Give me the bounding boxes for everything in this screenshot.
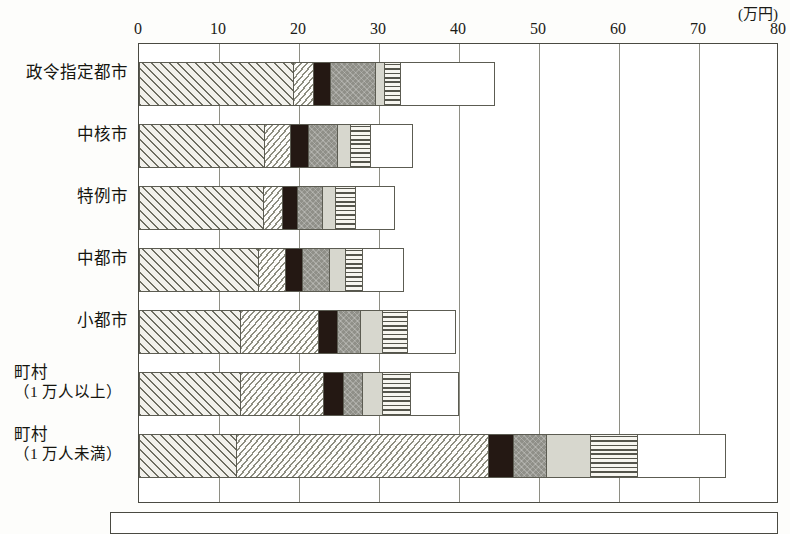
category-label-0: 政令指定都市 [0, 63, 128, 83]
bar-segment-dotted-weave [264, 186, 283, 230]
stacked-bar [139, 434, 726, 478]
bar-segment-horizontal-line [383, 372, 411, 416]
stacked-bar [139, 124, 413, 168]
plot-area [138, 43, 778, 503]
bar-segment-dark-gray [298, 186, 323, 230]
bar-segment-dotted-weave [259, 248, 286, 292]
bar-segment-white [638, 434, 726, 478]
x-tick-label-40: 40 [450, 20, 466, 38]
x-tick-label-80: 80 [770, 20, 786, 38]
category-label-line: 特例市 [77, 187, 128, 206]
bar-segment-dark-gray [331, 62, 376, 106]
x-tick-label-10: 10 [210, 20, 226, 38]
x-axis-tick-labels: 01020304050607080 [0, 20, 790, 40]
bar-segment-solid-black [286, 248, 303, 292]
bar-row [139, 425, 777, 487]
bar-segment-light-gray [323, 186, 336, 230]
bar-segment-diagonal-hatch [139, 434, 237, 478]
stacked-bar [139, 310, 456, 354]
bar-row [139, 177, 777, 239]
bar-segment-dark-gray [309, 124, 338, 168]
bar-segment-horizontal-line [336, 186, 356, 230]
x-tick-label-0: 0 [134, 20, 142, 38]
bar-segment-diagonal-hatch [139, 248, 259, 292]
bar-segment-dotted-weave [241, 310, 319, 354]
bar-segment-diagonal-hatch [139, 124, 265, 168]
x-tick-label-60: 60 [610, 20, 626, 38]
bar-segment-solid-black [314, 62, 331, 106]
category-label-line: 小都市 [77, 311, 128, 330]
bar-segment-dark-gray [338, 310, 361, 354]
bar-segment-dotted-weave [265, 124, 291, 168]
stacked-bar [139, 372, 459, 416]
category-label-line: 中核市 [77, 125, 128, 144]
bar-segment-solid-black [324, 372, 344, 416]
bar-row [139, 115, 777, 177]
bar-segment-white [371, 124, 413, 168]
category-label-line: 政令指定都市 [26, 63, 128, 82]
bar-row [139, 239, 777, 301]
bar-segment-white [408, 310, 456, 354]
x-tick-label-70: 70 [690, 20, 706, 38]
bar-segment-solid-black [489, 434, 515, 478]
category-label-line: 中都市 [77, 249, 128, 268]
category-label-1: 中核市 [0, 125, 128, 145]
bar-segment-dark-gray [514, 434, 547, 478]
bar-segment-white [356, 186, 395, 230]
category-label-line: （1 万人以上） [14, 383, 128, 402]
x-tick-label-20: 20 [290, 20, 306, 38]
bar-segment-dotted-weave [241, 372, 323, 416]
bar-segment-light-gray [363, 372, 383, 416]
bar-row [139, 301, 777, 363]
category-label-5: 町村（1 万人以上） [0, 363, 128, 402]
stacked-bar [139, 186, 395, 230]
bar-segment-horizontal-line [383, 310, 408, 354]
category-label-6: 町村（1 万人未満） [0, 425, 128, 464]
bar-segment-horizontal-line [346, 248, 363, 292]
bar-segment-diagonal-hatch [139, 372, 241, 416]
bar-segment-diagonal-hatch [139, 62, 294, 106]
bar-row [139, 53, 777, 115]
bar-row [139, 363, 777, 425]
bar-segment-diagonal-hatch [139, 310, 241, 354]
stacked-bar [139, 248, 404, 292]
bar-segment-white [411, 372, 459, 416]
bar-segment-dotted-weave [237, 434, 489, 478]
bar-segment-solid-black [319, 310, 338, 354]
category-label-2: 特例市 [0, 187, 128, 207]
category-label-line: 町村 [14, 425, 48, 444]
category-label-line: 町村 [14, 363, 48, 382]
x-tick-label-50: 50 [530, 20, 546, 38]
bar-segment-dark-gray [344, 372, 363, 416]
bar-segment-light-gray [361, 310, 383, 354]
bar-segment-dark-gray [303, 248, 330, 292]
bar-segment-diagonal-hatch [139, 186, 264, 230]
bar-segment-light-gray [338, 124, 351, 168]
bar-segment-white [401, 62, 495, 106]
bar-segment-dotted-weave [294, 62, 314, 106]
x-tick-label-30: 30 [370, 20, 386, 38]
stacked-bar [139, 62, 495, 106]
bar-segment-horizontal-line [591, 434, 638, 478]
bar-segment-white [363, 248, 404, 292]
bar-segment-horizontal-line [385, 62, 401, 106]
bar-segment-light-gray [330, 248, 346, 292]
category-label-3: 中都市 [0, 249, 128, 269]
bar-segment-light-gray [376, 62, 386, 106]
bar-segment-solid-black [291, 124, 309, 168]
bar-segment-light-gray [547, 434, 591, 478]
bar-segment-solid-black [283, 186, 298, 230]
legend-box [110, 512, 778, 534]
category-label-line: （1 万人未満） [14, 445, 128, 464]
category-label-4: 小都市 [0, 311, 128, 331]
bar-segment-horizontal-line [351, 124, 371, 168]
